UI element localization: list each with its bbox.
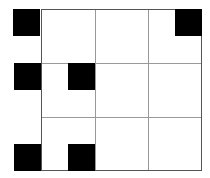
black-square-bottom-left bbox=[14, 144, 41, 171]
grid-hline-1 bbox=[42, 63, 201, 64]
grid-hline-2 bbox=[42, 117, 201, 118]
black-square-top-right bbox=[175, 9, 202, 36]
grid-vline-2 bbox=[148, 10, 149, 170]
black-square-bottom-center-left bbox=[68, 144, 95, 171]
black-square-top-left bbox=[13, 9, 40, 36]
black-square-middle-left bbox=[14, 63, 41, 90]
black-square-middle-center-left bbox=[68, 63, 95, 90]
grid-vline-1 bbox=[95, 10, 96, 170]
